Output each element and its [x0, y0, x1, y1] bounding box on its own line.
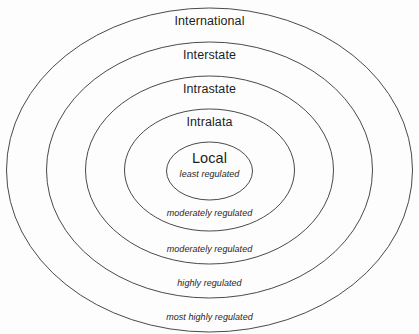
regulation-scope-diagram: International Interstate Intrastate Intr…	[0, 0, 419, 334]
ring-label-interstate: Interstate	[0, 49, 419, 62]
ring-note-intralata: moderately regulated	[0, 209, 419, 218]
ring-label-intrastate: Intrastate	[0, 83, 419, 96]
ring-note-interstate: highly regulated	[0, 279, 419, 288]
ring-label-intralata: Intralata	[0, 116, 419, 129]
ring-label-local: Local	[0, 151, 419, 166]
ring-note-international: most highly regulated	[0, 313, 419, 322]
ring-note-intrastate: moderately regulated	[0, 245, 419, 254]
ring-note-local: least regulated	[0, 170, 419, 179]
ring-label-international: International	[0, 15, 419, 28]
